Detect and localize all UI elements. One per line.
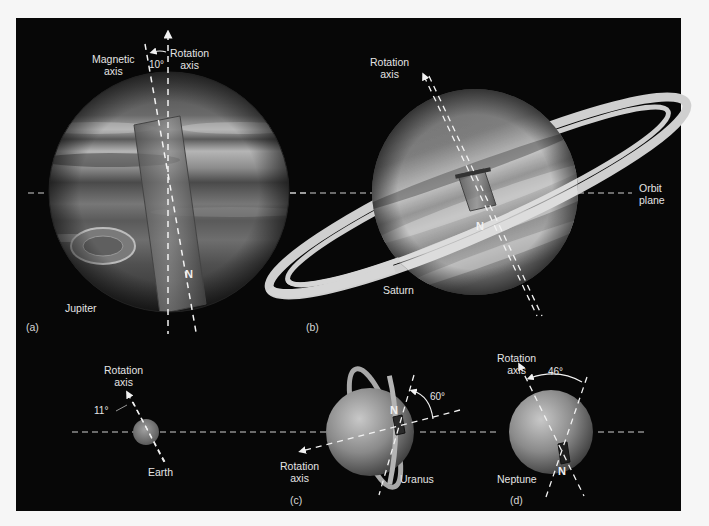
rotation-axis-label: Rotation axis <box>370 56 409 80</box>
planet-name-uranus: Uranus <box>400 473 434 485</box>
angle-arc <box>153 51 166 52</box>
tilt-angle-label: 11° <box>94 405 108 417</box>
panel-label-d: (d) <box>510 494 523 506</box>
earth-group <box>72 394 328 462</box>
planet-name-jupiter: Jupiter <box>65 302 97 314</box>
north-pole-label: N <box>185 268 193 280</box>
tilt-angle-label: 46° <box>548 366 563 378</box>
panel-label-b: (b) <box>306 321 319 333</box>
planet-name-neptune: Neptune <box>497 473 537 485</box>
planet-name-saturn: Saturn <box>383 284 414 296</box>
rotation-axis-label: Rotation axis <box>280 460 319 484</box>
earth-planet <box>133 419 159 445</box>
neptune-planet <box>509 390 593 474</box>
magnetic-axis-label: Magnetic axis <box>92 53 135 77</box>
planet-name-earth: Earth <box>148 466 173 478</box>
panel-label-c: (c) <box>290 494 302 506</box>
north-pole-label: N <box>558 465 566 477</box>
north-pole-label: N <box>476 220 484 232</box>
rotation-axis-label: Rotation axis <box>497 352 536 376</box>
rotation-axis-label: Rotation axis <box>170 47 209 71</box>
orbit-plane-label: Orbit plane <box>639 182 665 206</box>
magnetic-field-diagram <box>0 0 709 526</box>
rotation-axis-label: Rotation axis <box>104 364 143 388</box>
saturn-group <box>254 69 701 324</box>
tilt-angle-label: 10° <box>149 59 164 71</box>
north-pole-label: N <box>390 404 398 416</box>
panel-label-a: (a) <box>26 321 39 333</box>
tilt-angle-label: 60° <box>430 391 445 403</box>
